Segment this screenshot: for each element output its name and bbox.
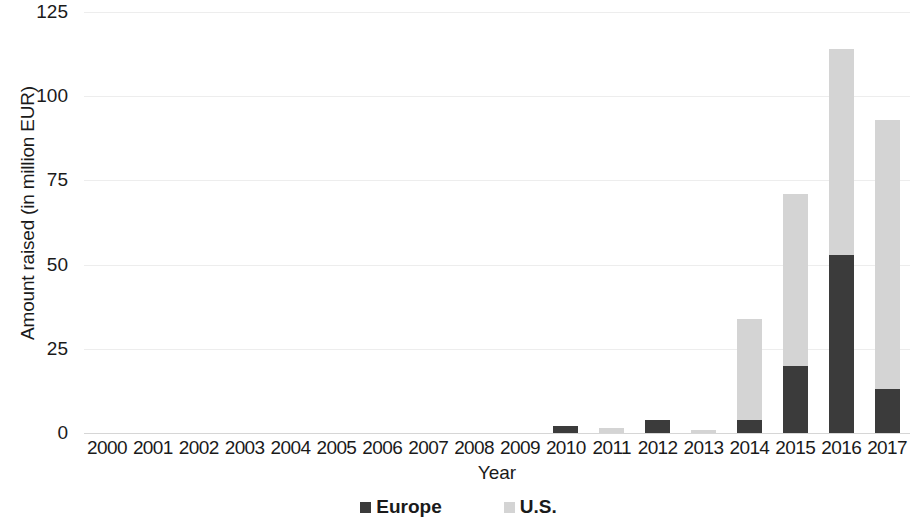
bar-segment-europe[interactable] <box>875 389 900 433</box>
bar-group[interactable] <box>451 12 497 433</box>
y-tick-label: 50 <box>47 254 68 276</box>
plot-area <box>84 12 910 433</box>
bar-group[interactable] <box>176 12 222 433</box>
bar-segment-us[interactable] <box>691 430 716 433</box>
bar-segment-us[interactable] <box>599 428 624 433</box>
stacked-bar-chart: Amount raised (in million EUR) 125 100 7… <box>0 0 917 527</box>
legend-item-europe: Europe <box>360 496 441 518</box>
bar-group[interactable] <box>772 12 818 433</box>
bar-group[interactable] <box>222 12 268 433</box>
bar-group[interactable] <box>268 12 314 433</box>
bar-segment-europe[interactable] <box>737 420 762 433</box>
bar-group[interactable] <box>84 12 130 433</box>
y-tick-label: 25 <box>47 338 68 360</box>
bar-segment-europe[interactable] <box>783 366 808 433</box>
y-tick-label: 125 <box>36 1 68 23</box>
legend-item-us: U.S. <box>504 496 557 518</box>
bar-segment-us[interactable] <box>737 319 762 420</box>
bar-stack[interactable] <box>737 319 762 434</box>
bar-group[interactable] <box>543 12 589 433</box>
bar-segment-europe[interactable] <box>645 420 670 433</box>
bar-group[interactable] <box>130 12 176 433</box>
y-tick-label: 100 <box>36 85 68 107</box>
y-axis-tick-labels: 125 100 75 50 25 0 <box>0 0 76 527</box>
x-axis-title: Year <box>84 462 910 484</box>
bar-segment-us[interactable] <box>829 49 854 254</box>
bar-group[interactable] <box>497 12 543 433</box>
legend-label: Europe <box>376 496 441 518</box>
y-tick-label: 0 <box>57 422 68 444</box>
bar-stack[interactable] <box>691 430 716 433</box>
bar-stack[interactable] <box>599 428 624 433</box>
bar-group[interactable] <box>359 12 405 433</box>
bar-stack[interactable] <box>553 426 578 433</box>
bar-series-container <box>84 12 910 433</box>
bar-group[interactable] <box>726 12 772 433</box>
bar-segment-us[interactable] <box>783 194 808 366</box>
chart-legend: Europe U.S. <box>0 496 917 518</box>
bar-segment-europe[interactable] <box>553 426 578 433</box>
bar-group[interactable] <box>589 12 635 433</box>
bar-group[interactable] <box>313 12 359 433</box>
bar-group[interactable] <box>405 12 451 433</box>
legend-swatch-icon <box>504 502 515 513</box>
bar-group[interactable] <box>818 12 864 433</box>
legend-label: U.S. <box>520 496 557 518</box>
bar-stack[interactable] <box>783 194 808 433</box>
y-tick-label: 75 <box>47 169 68 191</box>
bar-segment-europe[interactable] <box>829 255 854 434</box>
bar-stack[interactable] <box>829 49 854 433</box>
bar-group[interactable] <box>635 12 681 433</box>
bar-group[interactable] <box>864 12 910 433</box>
gridline <box>84 433 910 434</box>
bar-segment-us[interactable] <box>875 120 900 389</box>
bar-stack[interactable] <box>875 120 900 433</box>
bar-group[interactable] <box>681 12 727 433</box>
bar-stack[interactable] <box>645 420 670 433</box>
legend-swatch-icon <box>360 502 371 513</box>
